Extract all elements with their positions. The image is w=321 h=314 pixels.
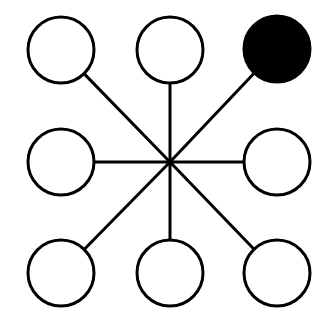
spoke-top-left [84, 74, 170, 162]
spoke-top-right [170, 73, 254, 162]
node-middle-right [244, 129, 310, 195]
node-top-center [137, 17, 203, 83]
node-bottom-left [28, 240, 94, 306]
node-middle-left [28, 129, 94, 195]
spoke-bottom-right [170, 162, 254, 249]
star-network-diagram [0, 0, 321, 314]
hub-point [168, 160, 172, 164]
node-bottom-right [244, 240, 310, 306]
node-top-right-filled [244, 16, 310, 82]
spoke-bottom-left [84, 162, 170, 249]
node-bottom-center [137, 240, 203, 306]
node-top-left [28, 17, 94, 83]
